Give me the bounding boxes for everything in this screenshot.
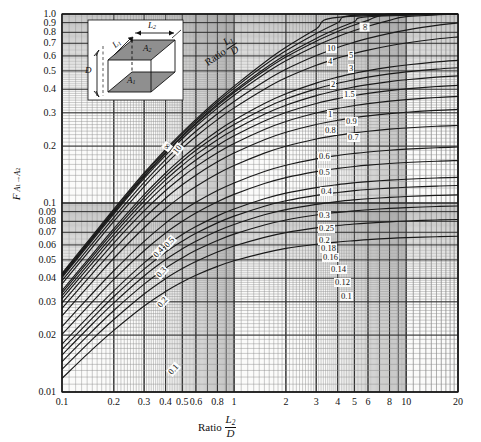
y-axis-title-1: 1 <box>15 184 21 187</box>
view-factor-chart <box>0 0 481 442</box>
curve-end-label: 10 <box>326 44 337 53</box>
y-axis-title-a1: A <box>13 187 22 192</box>
x-axis-title: Ratio L2 D <box>198 414 236 439</box>
curve-end-label: 0.16 <box>322 253 339 262</box>
x-axis-title-num: L2 <box>225 414 237 428</box>
x-axis-tick-label: 1 <box>222 397 246 407</box>
y-axis-tick-label: 0.08 <box>26 216 56 226</box>
curve-end-label: 0.8 <box>324 126 337 135</box>
curve-end-label: 0.3 <box>318 211 331 220</box>
y-axis-title-2: 2 <box>15 168 21 171</box>
y-axis-tick-label: 0.5 <box>26 66 56 76</box>
y-axis-title-arrow: → <box>13 176 22 184</box>
inset-label-l2: L2 <box>148 21 156 31</box>
y-axis-tick-label: 0.9 <box>26 18 56 28</box>
y-axis-tick-label: 0.4 <box>26 84 56 94</box>
y-axis-title: F A1→A2 <box>10 154 22 214</box>
y-axis-tick-label: 0.06 <box>26 240 56 250</box>
y-axis-tick-label: 0.8 <box>26 27 56 37</box>
curve-end-label: 0.1 <box>340 292 353 301</box>
y-axis-tick-label: 0.6 <box>26 51 56 61</box>
curve-end-label: 5 <box>348 51 354 60</box>
y-axis-tick-label: 0.04 <box>26 273 56 283</box>
inset-label-a2: A2 <box>143 44 151 54</box>
curve-end-label: ∞ <box>360 22 370 31</box>
x-axis-tick-label: 0.3 <box>132 397 156 407</box>
curve-end-label: 2 <box>330 80 336 89</box>
y-axis-tick-label: 0.01 <box>26 387 56 397</box>
y-axis-tick-label: 0.7 <box>26 38 56 48</box>
x-axis-tick-label: 0.2 <box>102 397 126 407</box>
curve-end-label: 0.25 <box>318 224 335 233</box>
y-axis-tick-label: 1.0 <box>26 9 56 19</box>
x-axis-title-fraction: L2 D <box>225 414 237 439</box>
x-axis-tick-label: 20 <box>446 397 470 407</box>
y-axis-tick-label: 0.1 <box>26 198 56 208</box>
y-axis-tick-label: 0.02 <box>26 330 56 340</box>
y-axis-tick-label: 0.03 <box>26 297 56 307</box>
curve-end-label: 0.4 <box>320 187 333 196</box>
y-axis-tick-label: 0.07 <box>26 227 56 237</box>
x-axis-tick-label: 0.6 <box>184 397 208 407</box>
y-axis-tick-label: 0.2 <box>26 141 56 151</box>
x-axis-tick-label: 6 <box>356 397 380 407</box>
curve-end-label: 0.14 <box>330 265 347 274</box>
curve-end-label: 3 <box>348 64 354 73</box>
inset-label-d: D <box>85 66 92 75</box>
curve-end-label: 0.9 <box>345 117 358 126</box>
curve-end-label: 1 <box>327 110 333 119</box>
x-axis-tick-label: 0.1 <box>50 397 74 407</box>
curve-end-label: 0.6 <box>318 152 331 161</box>
inset-diagram <box>88 20 183 100</box>
y-axis-tick-label: 0.3 <box>26 108 56 118</box>
curve-end-label: 0.12 <box>334 278 351 287</box>
inset-label-a1: A1 <box>127 76 135 86</box>
y-axis-tick-label: 0.09 <box>26 207 56 217</box>
x-axis-tick-label: 2 <box>274 397 298 407</box>
curve-end-label: 4 <box>327 57 333 66</box>
x-axis-tick-label: 10 <box>394 397 418 407</box>
curve-family-word: Ratio <box>203 46 228 68</box>
x-axis-tick-label: 3 <box>304 397 328 407</box>
y-axis-title-f: F <box>10 194 22 201</box>
curve-end-label: 0.5 <box>318 168 331 177</box>
curve-end-label: 1.5 <box>343 90 356 99</box>
y-axis-tick-label: 0.05 <box>26 255 56 265</box>
x-axis-title-word: Ratio <box>198 421 222 433</box>
y-axis-title-a2: A <box>13 171 22 176</box>
x-axis-title-den: D <box>225 428 237 439</box>
curve-end-label: 0.7 <box>347 133 360 142</box>
